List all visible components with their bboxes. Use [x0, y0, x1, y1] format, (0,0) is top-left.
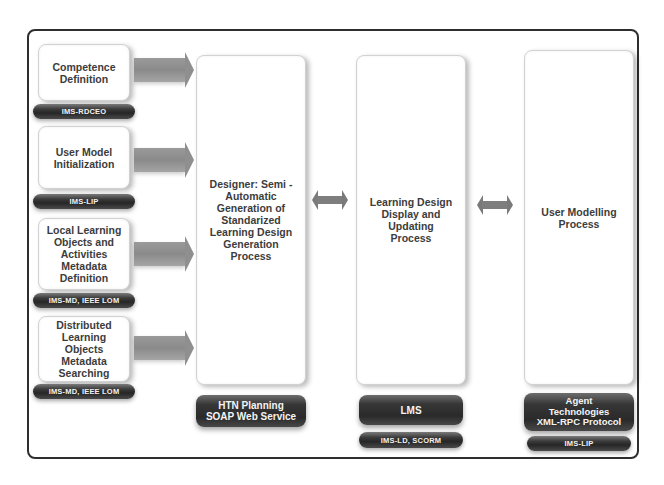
standard-pill-ims-lip: IMS-LIP [33, 194, 135, 209]
standard-pill-ims-md-ieee-lom: IMS-MD, IEEE LOM [33, 293, 135, 308]
input-label: User Model Initialization [54, 146, 115, 170]
process-label: Learning Design Display and Updating Pro… [370, 196, 452, 244]
technology-badge-htn-planning: HTN Planning SOAP Web Service [196, 395, 306, 427]
standard-pill-ims-rdceo: IMS-RDCEO [33, 104, 135, 119]
process-label: Designer: Semi - Automatic Generation of… [210, 178, 293, 262]
input-label: Competence Definition [52, 61, 115, 85]
technology-badge-agent-technologies: Agent Technologies XML-RPC Protocol [524, 393, 634, 431]
input-box-competence-definition: Competence Definition [38, 44, 130, 101]
arrow-right-icon [134, 52, 194, 88]
double-arrow-icon [312, 190, 348, 210]
technology-badge-lms: LMS [359, 395, 463, 425]
input-box-local-learning-objects: Local Learning Objects and Activities Me… [38, 218, 130, 290]
process-box-designer: Designer: Semi - Automatic Generation of… [196, 55, 306, 385]
process-box-user-modelling: User Modelling Process [524, 50, 634, 385]
standard-pill-ims-md-ieee-lom: IMS-MD, IEEE LOM [33, 384, 135, 399]
arrow-right-icon [134, 142, 194, 178]
standard-pill-ims-lip: IMS-LIP [527, 436, 631, 451]
input-box-user-model-initialization: User Model Initialization [38, 126, 130, 189]
input-label: Local Learning Objects and Activities Me… [47, 224, 122, 284]
process-label: User Modelling Process [541, 206, 616, 230]
double-arrow-icon [477, 195, 513, 215]
standard-pill-ims-ld-scorm: IMS-LD, SCORM [359, 432, 463, 448]
input-label: Distributed Learning Objects Metadata Se… [56, 319, 111, 379]
input-box-distributed-learning-objects: Distributed Learning Objects Metadata Se… [38, 316, 130, 382]
arrow-right-icon [134, 330, 194, 366]
arrow-right-icon [134, 236, 194, 272]
process-box-learning-design-display: Learning Design Display and Updating Pro… [356, 55, 466, 385]
